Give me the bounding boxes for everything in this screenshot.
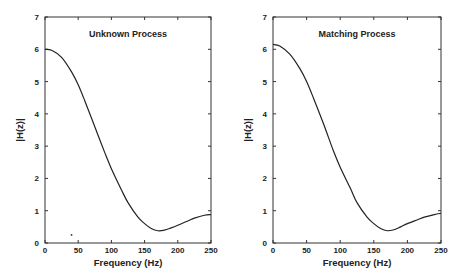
x-tick-label: 150 [138,246,152,255]
magnitude-response-line [45,49,211,231]
x-tick-label: 50 [74,246,83,255]
x-axis-label: Frequency (Hz) [94,257,163,268]
y-axis-label: |H(z)| [14,118,25,141]
figure: 01234567050100150200250Unknown ProcessFr… [0,0,464,276]
y-tick-label: 1 [263,207,268,216]
x-tick-label: 200 [171,246,185,255]
y-tick-label: 4 [35,110,40,119]
x-tick-label: 100 [105,246,119,255]
chart-panel-1: 01234567050100150200250Unknown ProcessFr… [14,13,218,268]
plot-frame [273,17,441,243]
y-tick-label: 3 [35,142,40,151]
y-tick-label: 2 [263,174,268,183]
chart-panel-2: 01234567050100150200250Matching ProcessF… [242,13,448,268]
x-tick-label: 0 [43,246,48,255]
plot-frame [45,17,211,243]
y-tick-label: 4 [263,110,268,119]
y-axis-label: |H(z)| [242,118,253,141]
x-tick-label: 250 [204,246,218,255]
x-tick-label: 50 [302,246,311,255]
x-axis-label: Frequency (Hz) [323,257,392,268]
x-tick-label: 200 [401,246,415,255]
chart-title: Unknown Process [89,29,167,39]
y-tick-label: 2 [35,174,40,183]
y-tick-label: 6 [35,45,40,54]
y-tick-label: 5 [263,78,268,87]
chart-title: Matching Process [318,29,395,39]
y-tick-label: 7 [263,13,268,22]
y-tick-label: 0 [35,239,40,248]
y-tick-label: 3 [263,142,268,151]
x-tick-label: 250 [434,246,448,255]
y-tick-label: 5 [35,78,40,87]
y-tick-label: 0 [263,239,268,248]
x-tick-label: 150 [367,246,381,255]
y-tick-label: 6 [263,45,268,54]
stray-dot [71,234,73,236]
x-tick-label: 0 [271,246,276,255]
magnitude-response-line [273,44,441,230]
x-tick-label: 100 [334,246,348,255]
y-tick-label: 1 [35,207,40,216]
y-tick-label: 7 [35,13,40,22]
